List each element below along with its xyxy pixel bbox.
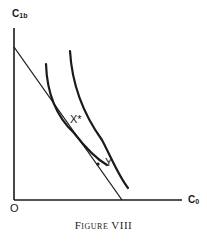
point-x-star-label: X*	[70, 114, 82, 125]
indifference-diagram	[0, 0, 207, 241]
point-y-label: Y	[105, 157, 112, 168]
figure-caption: Figure VIII	[0, 219, 207, 231]
origin-label: O	[10, 203, 19, 214]
x-axis-label-subscript: 0	[195, 198, 199, 205]
y-axis-label: C1b	[12, 9, 27, 19]
y-axis-label-subscript: 1b	[19, 12, 27, 19]
point-y-marker	[96, 162, 99, 165]
x-axis-label: C0	[188, 195, 199, 205]
budget-line	[14, 47, 122, 200]
